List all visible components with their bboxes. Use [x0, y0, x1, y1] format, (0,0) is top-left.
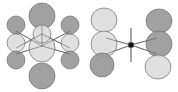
center-node-dot — [129, 43, 134, 48]
right-middle-lobe — [61, 34, 79, 52]
left-lower-lobe — [90, 53, 114, 77]
left-upper-lobe — [91, 8, 117, 32]
orbital-diagram-canvas — [0, 0, 178, 92]
right-upper-lobe — [146, 9, 172, 33]
orbital-diagram-figure — [0, 0, 178, 92]
right-lower-lobe — [145, 55, 171, 79]
left-middle-lobe — [7, 34, 25, 52]
bottom-lobe — [29, 63, 55, 89]
right-middle-lobe — [146, 31, 172, 57]
